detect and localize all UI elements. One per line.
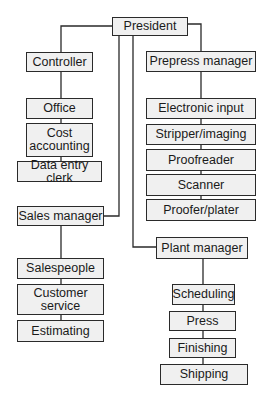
node-finishing: Finishing xyxy=(169,338,236,358)
node-electronic-input: Electronic input xyxy=(146,98,256,119)
node-office: Office xyxy=(26,98,93,119)
node-cost-accounting: Cost accounting xyxy=(26,123,93,157)
node-scanner: Scanner xyxy=(146,174,256,196)
node-prepress-manager: Prepress manager xyxy=(146,51,256,72)
node-scheduling: Scheduling xyxy=(172,284,235,305)
node-customer-service: Customer service xyxy=(17,284,104,315)
node-data-entry-clerk: Data entry clerk xyxy=(17,161,102,182)
node-proofer-plater: Proofer/plater xyxy=(146,199,256,221)
node-estimating: Estimating xyxy=(17,320,104,342)
node-sales-manager: Sales manager xyxy=(17,206,104,226)
node-plant-manager: Plant manager xyxy=(156,237,248,259)
node-shipping: Shipping xyxy=(160,364,248,385)
node-controller: Controller xyxy=(26,52,93,72)
node-press: Press xyxy=(169,311,236,331)
node-salespeople: Salespeople xyxy=(17,258,104,279)
node-president: President xyxy=(112,17,188,36)
node-proofreader: Proofreader xyxy=(146,149,256,171)
node-stripper-imaging: Stripper/imaging xyxy=(146,124,256,145)
